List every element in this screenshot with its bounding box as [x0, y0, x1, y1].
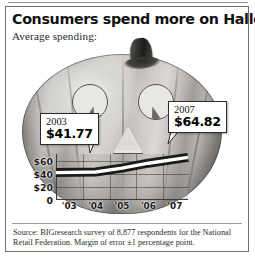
infographic: Consumers spend more on Halloween Averag… — [0, 0, 255, 258]
callout-2003-amount: $41.77 — [46, 127, 93, 141]
callout-2007: 2007 $64.82 — [168, 101, 227, 133]
callout-2003: 2003 $41.77 — [40, 113, 99, 145]
callout-2007-amount: $64.82 — [174, 115, 221, 129]
